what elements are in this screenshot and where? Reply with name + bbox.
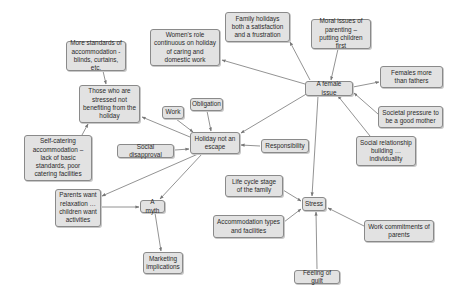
- concept-node-parents-want: Parents want relaxation … children want …: [55, 189, 101, 227]
- concept-node-females-more: Females more than fathers: [380, 66, 443, 88]
- arrow-connector: [160, 154, 202, 199]
- concept-node-obligation: Obligation: [190, 98, 223, 111]
- concept-node-stress: Stress: [302, 197, 326, 211]
- arrow-connector: [354, 93, 378, 114]
- concept-node-social-disapproval: Social disapproval: [117, 144, 174, 158]
- concept-node-marketing: Marketing implications: [143, 252, 183, 274]
- arrow-connector: [331, 49, 338, 80]
- arrow-connector: [353, 82, 379, 87]
- concept-node-work-commitments: Work commitments of parents: [364, 220, 434, 242]
- concept-node-work: Work: [162, 106, 184, 119]
- arrow-connector: [103, 71, 106, 84]
- arrow-connector: [241, 145, 260, 146]
- concept-node-life-cycle: Life cycle stage of the family: [225, 175, 283, 197]
- concept-node-self-catering: Self-catering accommodation – lack of ba…: [24, 135, 92, 181]
- concept-node-family-holidays: Family holidays both a satisfaction and …: [225, 12, 290, 42]
- arrow-connector: [283, 190, 301, 201]
- concept-node-a-myth: A myth: [140, 200, 165, 213]
- arrow-connector: [338, 96, 370, 136]
- concept-map-canvas: More standards of accommodation - blinds…: [0, 0, 461, 298]
- arrow-connector: [222, 60, 305, 84]
- arrow-connector: [175, 149, 189, 150]
- concept-node-social-relationship: Social relationship building … individua…: [356, 136, 416, 166]
- arrow-connector: [82, 124, 88, 135]
- arrow-connector: [316, 212, 317, 269]
- arrow-connector: [290, 42, 310, 80]
- arrow-connector: [176, 119, 193, 132]
- arrow-connector: [312, 96, 318, 196]
- concept-node-accommodation-types: Accommodation types and facilities: [213, 215, 284, 238]
- concept-node-holiday-not-escape: Holiday not an escape: [190, 132, 240, 154]
- concept-node-responsibility: Responsibility: [261, 139, 309, 153]
- concept-node-societal-pressure: Societal pressure to be a good mother: [378, 106, 443, 128]
- concept-node-female-issue: A female issue: [305, 81, 353, 96]
- arrow-connector: [328, 208, 364, 226]
- concept-node-feeling-guilt: Feeling of guilt: [294, 270, 340, 284]
- concept-node-more-standards: More standards of accommodation - blinds…: [66, 41, 126, 71]
- concept-node-stressed: Those who are stressed not benefiting fr…: [79, 85, 140, 123]
- concept-node-womens-role: Women's role continuous on holiday of ca…: [150, 29, 220, 66]
- arrow-connector: [207, 111, 211, 131]
- arrow-connector: [102, 154, 198, 196]
- arrow-connector: [155, 213, 161, 251]
- concept-node-moral-issues: Moral issues of parenting – putting chil…: [311, 19, 371, 49]
- arrow-connector: [284, 209, 301, 222]
- arrow-connector: [142, 117, 190, 137]
- arrow-connector: [241, 93, 308, 133]
